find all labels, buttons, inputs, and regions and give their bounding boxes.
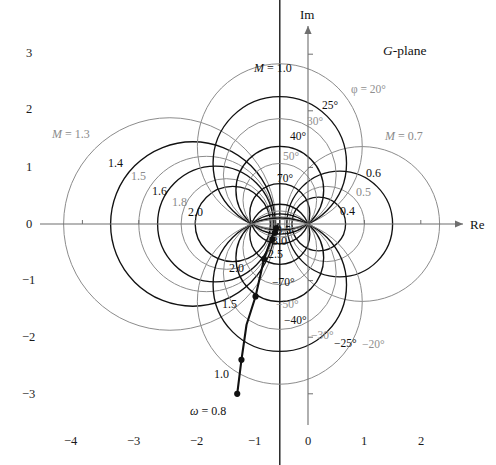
m-circle-label-left-0: M = 1.3 <box>52 128 90 140</box>
omega-label-2: 1.5 <box>222 298 237 310</box>
locus-marker-omega-1.0[interactable] <box>238 357 244 363</box>
real-axis-label: Re <box>470 218 484 231</box>
x-axis-tick-label-1: −3 <box>127 435 140 448</box>
y-axis-tick-label-2: 1 <box>26 161 32 174</box>
phase-label-neg-0: −70° <box>272 277 295 289</box>
y-axis-tick-label-6: −3 <box>22 388 35 401</box>
omega-label-3: 2.0 <box>229 262 244 274</box>
phase-label-pos-3: 40° <box>290 131 306 143</box>
x-axis-tick-label-0: −4 <box>64 435 77 448</box>
imaginary-axis-label: Im <box>300 8 314 21</box>
y-axis-tick-label-3: 0 <box>26 218 32 231</box>
phase-label-pos-5: 70° <box>277 173 293 185</box>
y-axis-tick-label-0: 3 <box>26 47 32 60</box>
phase-label-neg-3: −30° <box>311 330 334 342</box>
plane-title: G-plane <box>383 44 426 58</box>
curve-group <box>64 0 440 465</box>
real-axis-arrow <box>455 220 463 227</box>
omega-label-1: 1.0 <box>214 368 229 380</box>
y-axis-tick-label-5: −2 <box>22 331 35 344</box>
locus-marker-omega-2.0[interactable] <box>261 256 267 262</box>
locus-marker-omega-1.5[interactable] <box>252 293 258 299</box>
phase-label-neg-4: −25° <box>334 338 357 350</box>
x-axis-tick-label-3: −1 <box>248 435 261 448</box>
omega-label-0: ω = 0.8 <box>190 405 226 417</box>
m-circle-label-right-1: 0.6 <box>366 167 381 179</box>
phase-label-pos-4: 50° <box>283 151 299 163</box>
m-circle-label-left-5: 2.0 <box>188 206 203 218</box>
x-axis-tick-label-2: −2 <box>190 435 203 448</box>
m-circle-label-right-2: 0.5 <box>356 186 371 198</box>
omega-label-4: 2.5 <box>268 248 283 260</box>
m-circle-label-right-3: 0.4 <box>340 205 355 217</box>
omega-label-6: 3.5 <box>276 224 291 236</box>
x-axis-tick-label-6: 2 <box>418 435 424 448</box>
phase-label-pos-1: 25° <box>322 100 338 112</box>
g-plane-polar-plot: M = 1.31.41.51.61.82.0M = 0.70.60.50.4M … <box>0 0 496 465</box>
m-circle-label-right-0: M = 0.7 <box>385 130 423 142</box>
m-circle-label-left-4: 1.8 <box>172 196 187 208</box>
imaginary-axis-arrow <box>304 26 311 34</box>
locus-marker-omega-0.8[interactable] <box>234 391 240 397</box>
m-circle-label-top: M = 1.0 <box>254 62 292 74</box>
m-circle-label-left-2: 1.5 <box>131 170 146 182</box>
plot-canvas <box>0 0 496 465</box>
x-axis-tick-label-5: 1 <box>361 435 367 448</box>
m-circle-label-left-1: 1.4 <box>108 157 123 169</box>
phase-label-neg-5: −20° <box>362 339 385 351</box>
phase-label-neg-1: −50° <box>276 299 299 311</box>
phase-label-pos-0: φ = 20° <box>351 84 386 96</box>
x-axis-tick-label-4: 0 <box>305 435 311 448</box>
m-circle-label-left-3: 1.6 <box>152 185 167 197</box>
y-axis-tick-label-1: 2 <box>26 103 32 116</box>
y-axis-tick-label-4: −1 <box>22 274 35 287</box>
phase-label-neg-2: −40° <box>284 315 307 327</box>
phase-label-pos-2: 30° <box>307 116 323 128</box>
